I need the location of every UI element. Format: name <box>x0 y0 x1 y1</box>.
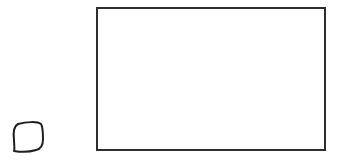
small-sketch-square <box>14 122 43 152</box>
large-rectangle-frame <box>97 8 325 150</box>
sketch-canvas <box>0 0 341 163</box>
